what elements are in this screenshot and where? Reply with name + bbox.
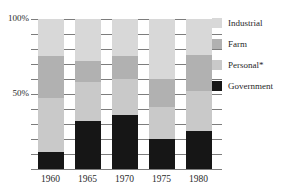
- legend-item-farm: Farm: [212, 38, 247, 50]
- legend-label: Farm: [228, 39, 247, 49]
- bar-segment-industrial-1970: [112, 19, 138, 57]
- y-axis-label: 50%: [0, 88, 29, 99]
- bar-segment-government-1980: [186, 131, 212, 169]
- bar-segment-farm-1980: [186, 55, 212, 91]
- x-tick-label: 1965: [70, 174, 106, 184]
- bar-1980: [186, 19, 212, 169]
- legend-swatch: [212, 81, 222, 91]
- bar-segment-industrial-1965: [75, 19, 101, 61]
- x-tick-label: 1960: [33, 174, 69, 184]
- stacked-bar-chart: 100%50%19601965197019751980 IndustrialFa…: [0, 0, 282, 192]
- bar-1975: [149, 19, 175, 169]
- bar-segment-industrial-1980: [186, 19, 212, 55]
- bar-segment-personal-1965: [75, 82, 101, 121]
- legend-item-personal: Personal*: [212, 59, 264, 71]
- bar-segment-farm-1975: [149, 79, 175, 108]
- x-tick-label: 1970: [107, 174, 143, 184]
- bar-1965: [75, 19, 101, 169]
- x-tick-label: 1975: [144, 174, 180, 184]
- legend-label: Government: [228, 81, 273, 91]
- bar-segment-industrial-1975: [149, 19, 175, 79]
- legend-label: Personal*: [228, 60, 264, 70]
- bar-segment-government-1970: [112, 115, 138, 169]
- bar-segment-government-1975: [149, 139, 175, 169]
- y-axis-label: 100%: [0, 13, 29, 24]
- legend-item-government: Government: [212, 80, 273, 92]
- legend-swatch: [212, 60, 222, 70]
- legend-label: Industrial: [228, 18, 263, 28]
- bar-segment-government-1960: [38, 152, 64, 169]
- bar-segment-personal-1975: [149, 107, 175, 139]
- gridline-0%: [31, 169, 222, 170]
- bar-segment-government-1965: [75, 121, 101, 169]
- legend-swatch: [212, 39, 222, 49]
- bar-segment-farm-1965: [75, 61, 101, 82]
- legend-swatch: [212, 18, 222, 28]
- bar-segment-industrial-1960: [38, 19, 64, 57]
- bar-segment-personal-1970: [112, 79, 138, 115]
- legend-item-industrial: Industrial: [212, 17, 263, 29]
- bar-segment-personal-1960: [38, 98, 64, 152]
- bar-1960: [38, 19, 64, 169]
- bar-segment-personal-1980: [186, 91, 212, 132]
- bar-1970: [112, 19, 138, 169]
- x-tick-label: 1980: [181, 174, 217, 184]
- bar-segment-farm-1970: [112, 56, 138, 79]
- bar-segment-farm-1960: [38, 56, 64, 98]
